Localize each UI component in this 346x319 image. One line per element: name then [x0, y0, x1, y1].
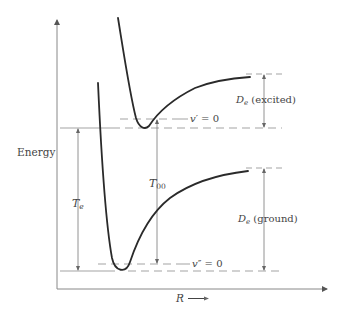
de-excited-main: D: [235, 94, 244, 105]
te-sub: e: [79, 202, 84, 211]
energy-axis-label: Energy: [17, 146, 55, 158]
ground-state-curve: [98, 83, 248, 270]
de-excited-text: (excited): [248, 94, 296, 105]
potential-curves: [98, 18, 250, 270]
de-ground-main: D: [237, 213, 246, 224]
ground-v0-rest: ″ = 0: [198, 258, 223, 269]
axes: [57, 20, 327, 289]
de-excited-label: De (excited): [235, 94, 296, 107]
t00-sub: 00: [156, 182, 166, 191]
de-ground-text: (ground): [250, 213, 298, 224]
r-axis-label: R: [175, 292, 184, 304]
excited-v0-label: v′ = 0: [190, 113, 219, 124]
t00-label: T00: [149, 177, 166, 191]
ground-v0-label: v″ = 0: [192, 258, 223, 269]
potential-energy-diagram: Energy R Te T00 De (excited) De (ground)…: [0, 0, 346, 319]
excited-v0-rest: ′ = 0: [196, 113, 219, 124]
excited-state-curve: [118, 18, 250, 128]
de-ground-label: De (ground): [237, 213, 298, 226]
te-label: Te: [72, 197, 84, 211]
